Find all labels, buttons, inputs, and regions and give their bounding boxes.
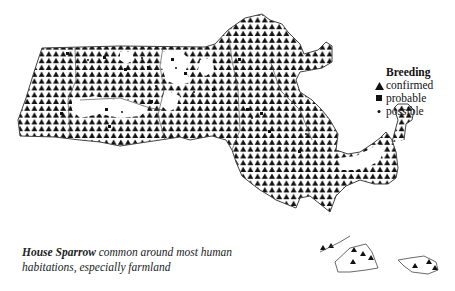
square-icon [372, 95, 386, 102]
map-caption: House Sparrow common around most human h… [22, 245, 232, 275]
caption-text-2: habitations, especially farmland [22, 260, 232, 275]
legend-label: probable [386, 92, 426, 105]
legend: Breeding confirmed probable possible [372, 66, 433, 118]
dot-icon [372, 109, 386, 114]
legend-title: Breeding [386, 66, 433, 79]
islands [320, 236, 438, 274]
caption-text-1: common around most human [96, 246, 232, 258]
legend-item-confirmed: confirmed [372, 79, 433, 92]
triangle-icon [372, 82, 386, 90]
legend-item-possible: possible [372, 105, 433, 118]
species-name: House Sparrow [22, 246, 96, 258]
legend-item-probable: probable [372, 92, 433, 105]
legend-label: confirmed [386, 79, 433, 92]
legend-label: possible [386, 105, 424, 118]
